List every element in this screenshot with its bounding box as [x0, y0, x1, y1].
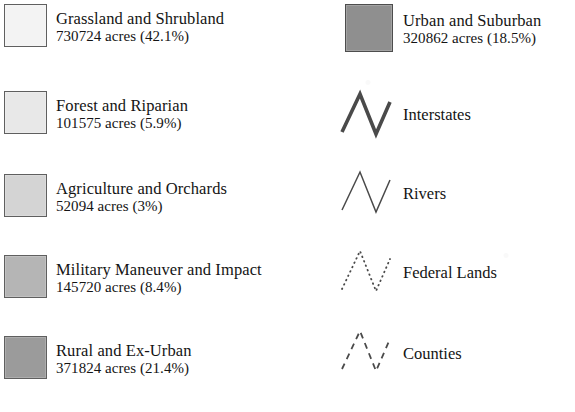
- legend-entry-name: Agriculture and Orchards: [56, 180, 227, 198]
- legend-entry-labels: Agriculture and Orchards 52094 acres (3%…: [56, 180, 227, 215]
- legend-entry-labels: Forest and Riparian 101575 acres (5.9%): [56, 97, 188, 132]
- legend-entry-stats: 730724 acres (42.1%): [56, 28, 224, 45]
- legend-color-swatch: [4, 336, 47, 379]
- map-legend: Grassland and Shrubland 730724 acres (42…: [0, 0, 575, 412]
- legend-entry-labels: Military Maneuver and Impact 145720 acre…: [56, 261, 262, 296]
- legend-color-swatch: [4, 4, 47, 47]
- zigzag-line-icon: [338, 245, 402, 301]
- legend-entry-name: Urban and Suburban: [403, 12, 541, 30]
- zigzag-line-icon: [338, 88, 402, 144]
- legend-color-swatch: [4, 174, 47, 217]
- legend-color-swatch: [4, 255, 47, 298]
- legend-entry-stats: 371824 acres (21.4%): [56, 360, 192, 377]
- legend-color-swatch: [4, 91, 47, 134]
- legend-line-label: Federal Lands: [403, 263, 497, 283]
- legend-entry-stats: 145720 acres (8.4%): [56, 279, 262, 296]
- legend-entry-stats: 101575 acres (5.9%): [56, 115, 188, 132]
- zigzag-line-icon: [338, 325, 402, 381]
- zigzag-line-icon: [338, 166, 402, 222]
- legend-line-label: Rivers: [403, 184, 446, 204]
- legend-entry-labels: Urban and Suburban 320862 acres (18.5%): [403, 12, 541, 47]
- legend-entry-labels: Rural and Ex-Urban 371824 acres (21.4%): [56, 342, 192, 377]
- legend-entry-stats: 320862 acres (18.5%): [403, 30, 541, 47]
- legend-entry-name: Grassland and Shrubland: [56, 10, 224, 28]
- legend-line-label: Counties: [403, 344, 462, 364]
- legend-entry-name: Forest and Riparian: [56, 97, 188, 115]
- legend-entry-labels: Grassland and Shrubland 730724 acres (42…: [56, 10, 224, 45]
- legend-color-swatch: [345, 4, 393, 52]
- legend-entry-stats: 52094 acres (3%): [56, 198, 227, 215]
- legend-entry-name: Rural and Ex-Urban: [56, 342, 192, 360]
- legend-line-label: Interstates: [403, 105, 471, 125]
- legend-entry-name: Military Maneuver and Impact: [56, 261, 262, 279]
